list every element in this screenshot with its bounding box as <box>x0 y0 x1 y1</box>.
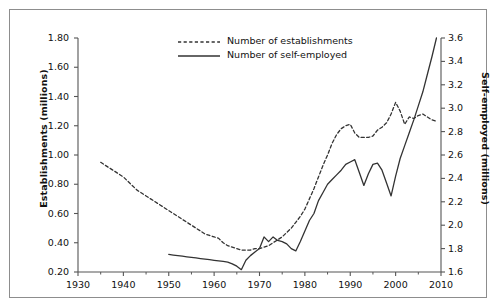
y-tick-label-right: 1.8 <box>448 243 488 254</box>
series-group <box>101 38 437 270</box>
x-tick-label: 1940 <box>98 279 148 290</box>
y-tick-label-left: 1.40 <box>29 91 69 102</box>
axes-group <box>74 38 445 276</box>
y-tick-label-right: 3.4 <box>448 55 488 66</box>
y-tick-label-right: 2.2 <box>448 196 488 207</box>
x-tick-label: 1970 <box>235 279 285 290</box>
y-tick-label-left: 0.80 <box>29 178 69 189</box>
figure-container: Establishments (millions) Self-employed … <box>0 0 496 307</box>
legend-label-1: Number of self-employed <box>227 49 347 60</box>
x-tick-label: 2000 <box>371 279 421 290</box>
caption-fragment <box>0 0 496 8</box>
x-tick-label: 1960 <box>189 279 239 290</box>
y-tick-label-right: 3.6 <box>448 32 488 43</box>
x-tick-label: 1930 <box>53 279 103 290</box>
y-tick-label-left: 1.60 <box>29 61 69 72</box>
legend-label-0: Number of establishments <box>227 35 353 46</box>
y-axis-title-left: Establishments (millions) <box>38 59 49 219</box>
y-tick-label-right: 1.6 <box>448 266 488 277</box>
x-tick-label: 1980 <box>280 279 330 290</box>
legend-group <box>178 42 220 56</box>
y-tick-label-left: 0.40 <box>29 237 69 248</box>
y-tick-label-left: 0.20 <box>29 266 69 277</box>
y-tick-label-left: 1.00 <box>29 149 69 160</box>
series-line-0 <box>101 102 437 250</box>
x-tick-label: 1990 <box>325 279 375 290</box>
y-tick-label-right: 2.8 <box>448 126 488 137</box>
y-tick-label-right: 2.0 <box>448 219 488 230</box>
x-tick-label: 1950 <box>144 279 194 290</box>
y-tick-label-right: 2.6 <box>448 149 488 160</box>
y-tick-label-right: 2.4 <box>448 172 488 183</box>
y-tick-label-left: 1.20 <box>29 120 69 131</box>
y-tick-label-right: 3.0 <box>448 102 488 113</box>
x-tick-label: 2010 <box>416 279 466 290</box>
y-tick-label-left: 0.60 <box>29 208 69 219</box>
y-tick-label-right: 3.2 <box>448 79 488 90</box>
y-tick-label-left: 1.80 <box>29 32 69 43</box>
figure-frame: Establishments (millions) Self-employed … <box>9 9 487 298</box>
